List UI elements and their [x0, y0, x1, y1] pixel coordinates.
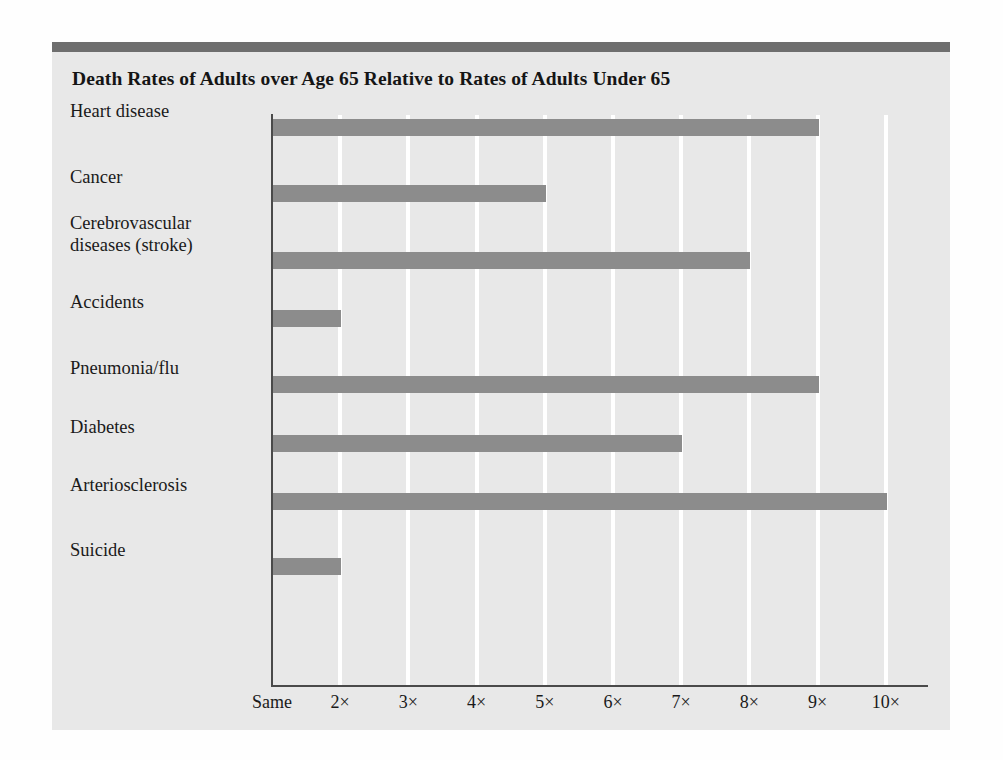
x-tick-label-6x: 6× — [603, 692, 622, 713]
bar-cerebrovascular-diseases-stroke — [273, 252, 750, 269]
page-canvas: Death Rates of Adults over Age 65 Relati… — [0, 0, 1003, 760]
gridline-8x — [747, 115, 751, 685]
category-label-line: Arteriosclerosis — [70, 475, 265, 497]
category-label-line: Heart disease — [70, 101, 265, 123]
category-label-line: diseases (stroke) — [70, 235, 265, 257]
category-label-arteriosclerosis: Arteriosclerosis — [70, 475, 265, 497]
x-tick-label-9x: 9× — [808, 692, 827, 713]
category-label-heart-disease: Heart disease — [70, 101, 265, 123]
x-tick-label-10x: 10× — [872, 692, 900, 713]
bar-suicide — [273, 558, 341, 575]
plot-area — [272, 115, 929, 685]
gridline-9x — [816, 115, 820, 685]
x-tick-label-2x: 2× — [331, 692, 350, 713]
category-label-line: Accidents — [70, 292, 265, 314]
category-label-line: Diabetes — [70, 417, 265, 439]
x-axis-line — [271, 685, 928, 687]
gridline-10x — [884, 115, 888, 685]
bar-pneumonia-flu — [273, 376, 819, 393]
gridline-7x — [679, 115, 683, 685]
gridline-6x — [611, 115, 615, 685]
category-label-cancer: Cancer — [70, 167, 265, 189]
bar-cancer — [273, 185, 546, 202]
bar-arteriosclerosis — [273, 493, 887, 510]
category-label-pneumonia-flu: Pneumonia/flu — [70, 358, 265, 380]
top-rule-divider — [52, 42, 950, 52]
category-label-suicide: Suicide — [70, 540, 265, 562]
category-label-cerebrovascular: Cerebrovasculardiseases (stroke) — [70, 213, 265, 257]
figure-panel: Death Rates of Adults over Age 65 Relati… — [52, 42, 950, 730]
category-label-line: Suicide — [70, 540, 265, 562]
category-label-accidents: Accidents — [70, 292, 265, 314]
bar-accidents — [273, 310, 341, 327]
bar-diabetes — [273, 435, 682, 452]
x-tick-label-3x: 3× — [399, 692, 418, 713]
x-tick-label-same: Same — [252, 692, 292, 713]
category-label-line: Cancer — [70, 167, 265, 189]
chart-title: Death Rates of Adults over Age 65 Relati… — [72, 68, 932, 90]
x-tick-label-8x: 8× — [740, 692, 759, 713]
x-tick-label-4x: 4× — [467, 692, 486, 713]
x-tick-label-7x: 7× — [672, 692, 691, 713]
x-tick-label-5x: 5× — [535, 692, 554, 713]
category-label-diabetes: Diabetes — [70, 417, 265, 439]
category-label-line: Cerebrovascular — [70, 213, 265, 235]
category-label-line: Pneumonia/flu — [70, 358, 265, 380]
bar-heart-disease — [273, 119, 819, 136]
